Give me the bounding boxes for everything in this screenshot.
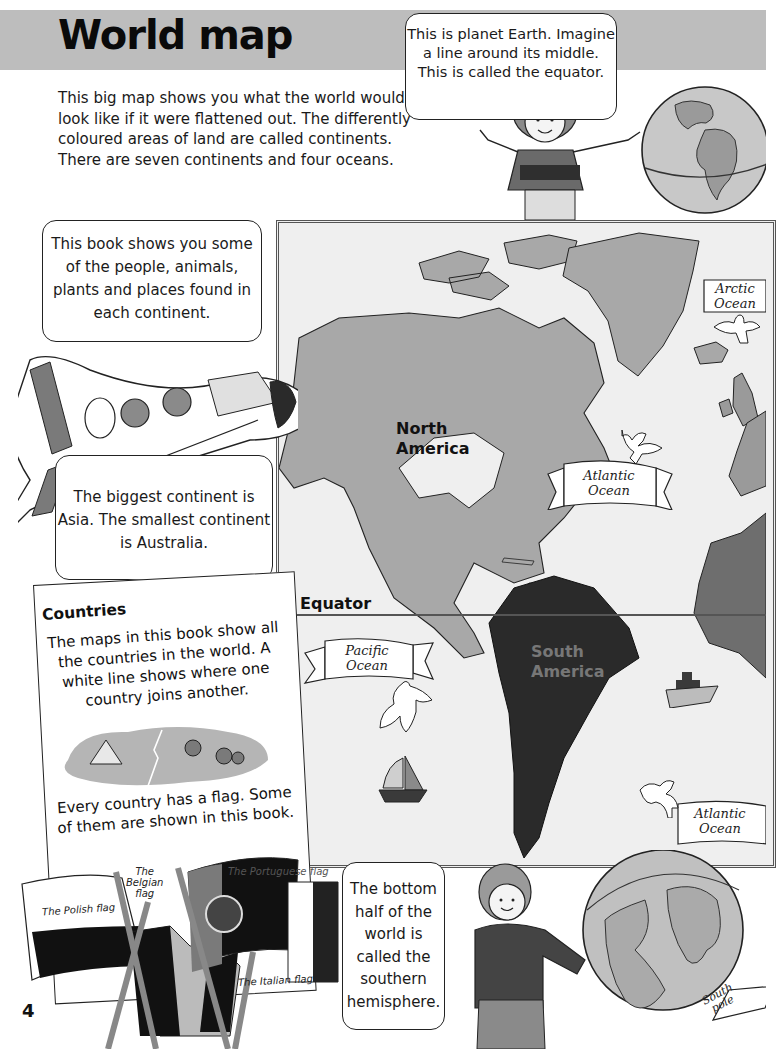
- label-belgian-flag: The Belgian flag: [126, 866, 163, 899]
- flags-illustration: [18, 852, 348, 1049]
- ocean-label-arctic-line1: Arctic: [706, 281, 764, 296]
- canadian-archipelago: [419, 235, 577, 300]
- boy-figure: [475, 864, 585, 1049]
- ocean-label-atlantic-north-line1: Atlantic: [566, 468, 652, 483]
- dove-icon: [712, 313, 760, 345]
- map-continents: [279, 223, 766, 865]
- label-belgian-flag-line1: The: [126, 866, 163, 877]
- ocean-label-arctic-line2: Ocean: [706, 296, 764, 311]
- speech-bubble-asia-text: The biggest continent is Asia. The small…: [56, 486, 272, 555]
- ocean-label-pacific-line2: Ocean: [325, 658, 409, 673]
- ship-icon: [664, 668, 720, 708]
- tree-icon: [216, 748, 232, 764]
- label-south-america-line2: America: [531, 662, 605, 682]
- sailboat-icon: [377, 752, 429, 804]
- page-number: 4: [22, 1000, 35, 1021]
- iceland: [694, 342, 728, 364]
- label-south-america-line1: South: [531, 642, 605, 662]
- label-north-america-line1: North: [396, 419, 470, 439]
- page-title: World map: [58, 12, 292, 58]
- ocean-label-atlantic-south-line1: Atlantic: [680, 806, 760, 821]
- speech-bubble-earth-text: This is planet Earth. Imagine a line aro…: [406, 25, 616, 82]
- speech-bubble-book: This book shows you some of the people, …: [42, 220, 262, 342]
- label-north-america-line2: America: [396, 439, 470, 459]
- ocean-label-pacific-line1: Pacific: [325, 643, 409, 658]
- tree-icon: [185, 740, 201, 756]
- portuguese-coat-of-arms-icon: [206, 896, 242, 932]
- countries-text: The maps in this book show all the count…: [43, 617, 288, 714]
- africa: [694, 513, 766, 678]
- boy-with-globe-illustration: [455, 850, 766, 1049]
- dove-icon: [376, 678, 434, 734]
- british-isles: [719, 373, 758, 426]
- dove-icon: [636, 778, 682, 818]
- dove-icon: [618, 430, 668, 464]
- equator-label: Equator: [300, 594, 371, 613]
- airplane-door: [85, 398, 115, 438]
- label-belgian-flag-line3: flag: [126, 888, 163, 899]
- ocean-label-atlantic-south: Atlantic Ocean: [680, 806, 760, 836]
- globe-icon: [642, 87, 766, 213]
- label-belgian-flag-line2: Belgian: [126, 877, 163, 888]
- speech-bubble-southern-hemisphere: The bottom half of the world is called t…: [342, 862, 445, 1030]
- equator-line: [278, 614, 766, 616]
- ocean-label-atlantic-north: Atlantic Ocean: [566, 468, 652, 498]
- ocean-label-arctic: Arctic Ocean: [706, 281, 764, 311]
- south-america: [489, 576, 639, 858]
- speech-bubble-asia: The biggest continent is Asia. The small…: [55, 455, 273, 580]
- label-south-america: South America: [531, 642, 605, 682]
- label-north-america: North America: [396, 419, 470, 459]
- speech-bubble-book-text: This book shows you some of the people, …: [43, 233, 261, 325]
- window-passenger-icon: [163, 388, 191, 416]
- speech-bubble-southern-hemisphere-text: The bottom half of the world is called t…: [343, 878, 444, 1013]
- speech-bubble-earth: This is planet Earth. Imagine a line aro…: [405, 13, 617, 120]
- label-portuguese-flag: The Portuguese flag: [228, 866, 329, 877]
- ocean-label-atlantic-north-line2: Ocean: [566, 483, 652, 498]
- window-passenger-icon: [121, 399, 149, 427]
- country-border-illustration: [62, 720, 272, 790]
- ocean-label-atlantic-south-line2: Ocean: [680, 821, 760, 836]
- ocean-label-pacific: Pacific Ocean: [325, 643, 409, 673]
- tree-icon: [232, 752, 244, 764]
- europe: [729, 411, 766, 496]
- intro-paragraph: This big map shows you what the world wo…: [58, 88, 418, 170]
